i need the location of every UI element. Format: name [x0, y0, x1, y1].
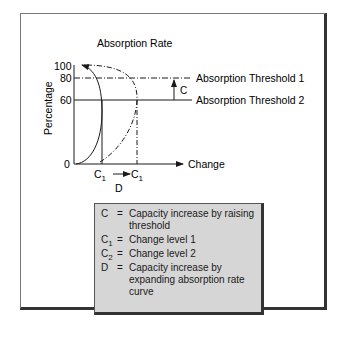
c-arrow-label: C: [180, 85, 187, 96]
absorption-curve-solid: [76, 65, 102, 164]
tick-100: 100: [54, 60, 72, 72]
x-axis-label: Change: [188, 158, 225, 170]
legend-item: C = Capacity increase by raising thresho…: [101, 208, 255, 232]
diagram-title: Absorption Rate: [97, 37, 172, 49]
y-axis-label: Percentage: [42, 81, 54, 135]
legend-item: C1 = Change level 1: [101, 234, 255, 246]
legend-box: C = Capacity increase by raising thresho…: [94, 203, 264, 315]
c1-left-label: C1: [94, 168, 107, 183]
threshold-1-label: Absorption Threshold 1: [196, 72, 305, 84]
tick-60: 60: [60, 94, 72, 106]
legend-item: C2 = Change level 2: [101, 248, 255, 260]
c1-right-label: C1: [131, 168, 144, 183]
tick-0: 0: [64, 158, 70, 170]
absorption-curve-expanded: [84, 65, 137, 162]
tick-80: 80: [60, 72, 72, 84]
threshold-2-label: Absorption Threshold 2: [196, 94, 305, 106]
d-label: D: [115, 182, 123, 194]
legend-item: D = Capacity increase by expanding absor…: [101, 262, 255, 298]
